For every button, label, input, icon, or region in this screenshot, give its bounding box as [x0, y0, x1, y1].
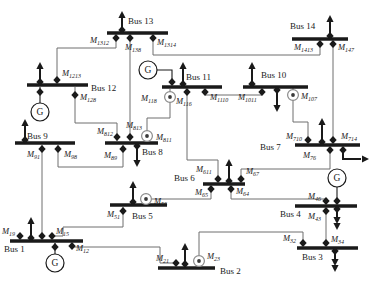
label-M34: M34 — [330, 234, 344, 245]
bus3-label: Bus 3 — [302, 252, 323, 262]
measurement-M813-diamond — [126, 133, 133, 141]
label-M116: M116 — [175, 96, 192, 107]
measurement-M1312-diamond — [112, 34, 119, 42]
gen-bus11-connector-diamond — [168, 78, 175, 86]
label-M91: M91 — [26, 149, 40, 160]
label-M811: M811 — [155, 132, 172, 143]
load-bus10-up-arrowhead — [248, 62, 255, 69]
gen-bus12-connector-diamond — [36, 88, 43, 96]
bus1-label: Bus 1 — [4, 244, 25, 254]
measurement-M15-diamond — [48, 232, 55, 240]
load-bus2-arrowhead — [181, 243, 188, 250]
measurement-M812-diamond — [113, 133, 120, 141]
label-M23: M23 — [206, 251, 220, 262]
label-M89: M89 — [103, 150, 117, 161]
measurement-M1413-diamond — [316, 40, 323, 48]
load-bus8-arrowhead — [133, 160, 140, 167]
label-M1314: M1314 — [156, 37, 176, 48]
label-M813: M813 — [125, 120, 142, 131]
label-M1011: M1011 — [237, 92, 257, 103]
measurement-M23-meter-dot — [197, 259, 201, 263]
label-M107: M107 — [300, 91, 318, 102]
bus4-label: Bus 4 — [280, 209, 301, 219]
label-M710: M710 — [285, 131, 302, 142]
label-M1110: M1110 — [209, 92, 228, 103]
measurement-M107-meter-dot — [291, 93, 295, 97]
measurement-M128-diamond — [71, 91, 78, 99]
gen-bus12-label: G — [37, 107, 44, 117]
bus2-label: Bus 2 — [220, 266, 241, 276]
load-bus10-down-arrowhead — [273, 105, 280, 112]
measurement-M19-diamond — [16, 232, 23, 240]
measurement-M46-diamond — [322, 197, 329, 205]
bus6-label: Bus 6 — [174, 173, 195, 183]
gen-bus1-connector-diamond — [51, 243, 58, 251]
label-M46: M46 — [307, 191, 321, 202]
load-bus13-arrowhead — [118, 11, 125, 18]
label-M19: M19 — [1, 226, 15, 237]
measurement-M91-diamond — [38, 145, 45, 153]
load-bus7-right-base-diamond — [339, 146, 346, 154]
label-M128: M128 — [79, 92, 96, 103]
label-M1312: M1312 — [89, 35, 109, 46]
load-bus6-arrowhead — [225, 159, 232, 166]
measurement-M98-diamond — [54, 145, 61, 153]
label-M21: M21 — [155, 253, 169, 264]
measurement-M147-diamond — [329, 40, 336, 48]
measurement-M116-diamond — [183, 88, 190, 96]
load-bus11-arrowhead — [179, 62, 186, 69]
load-bus5-arrowhead — [129, 181, 136, 188]
measurement-M64-diamond — [227, 185, 234, 193]
load-bus3-arrowhead — [331, 265, 338, 272]
bus12-label: Bus 12 — [91, 83, 116, 93]
bus5-label: Bus 5 — [132, 211, 153, 221]
measurement-M12-diamond — [68, 242, 75, 250]
measurement-M89-diamond — [119, 145, 126, 153]
load-bus7-right-shaft — [343, 147, 361, 159]
label-M611: M611 — [195, 164, 212, 175]
measurement-M51-diamond — [119, 207, 126, 215]
measurement-M138-diamond — [126, 34, 133, 42]
junction-diamond — [38, 232, 45, 240]
label-M1413: M1413 — [293, 42, 313, 53]
measurement-M65-diamond — [207, 185, 214, 193]
label-M15: M15 — [55, 226, 69, 237]
bus13-label: Bus 13 — [128, 16, 154, 26]
label-M65: M65 — [194, 187, 208, 198]
bus11-label: Bus 11 — [186, 72, 211, 82]
bus8-label: Bus 8 — [142, 147, 163, 157]
measurement-M611-diamond — [214, 175, 221, 183]
bus9-label: Bus 9 — [27, 131, 48, 141]
measurement-M710-diamond — [304, 136, 311, 144]
measurement-M811-meter-dot — [145, 134, 149, 138]
label-M1213: M1213 — [61, 68, 81, 79]
label-M32: M32 — [282, 233, 296, 244]
measurement-M714-diamond — [329, 136, 336, 144]
label-M138: M138 — [124, 42, 141, 53]
load-bus4-arrowhead — [333, 223, 340, 230]
load-bus12-arrowhead — [36, 62, 43, 69]
measurement-M34-diamond — [322, 239, 329, 247]
gen-bus4-label: G — [334, 173, 341, 183]
label-M812: M812 — [96, 126, 113, 137]
measurement-M56-meter-dot — [144, 197, 148, 201]
label-M118: M118 — [140, 93, 157, 104]
load-bus7-up-arrowhead — [318, 118, 325, 125]
load-bus1-arrowhead — [27, 217, 34, 224]
measurement-M21-diamond — [172, 259, 179, 267]
measurement-M1213-diamond — [53, 76, 60, 84]
measurement-M76-diamond — [326, 146, 333, 154]
measurement-M1314-diamond — [149, 34, 156, 42]
load-bus4-arrowhead-2 — [333, 217, 340, 224]
label-M56: M56 — [153, 196, 167, 207]
load-bus14-arrowhead — [326, 15, 333, 22]
load-bus7-right-arrowhead — [362, 155, 369, 162]
measurement-M67-diamond — [237, 175, 244, 183]
label-M147: M147 — [337, 42, 355, 53]
load-bus3-arrowhead-2 — [331, 259, 338, 266]
label-M51: M51 — [106, 209, 120, 220]
bus10-label: Bus 10 — [261, 70, 287, 80]
bus14-label: Bus 14 — [290, 21, 316, 31]
gen-bus1-label: G — [52, 258, 59, 268]
label-M67: M67 — [245, 166, 260, 177]
